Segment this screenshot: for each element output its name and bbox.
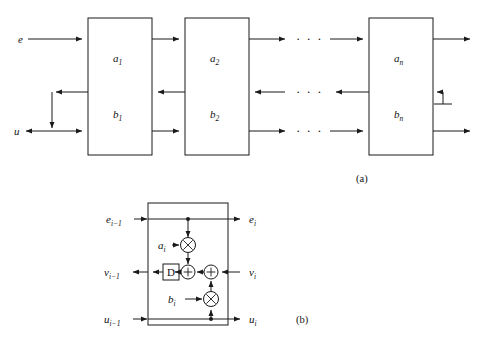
u-out-label: ui (249, 313, 257, 328)
figure-page: a1 b1 a2 b2 an bn e (0, 0, 482, 351)
e-input-label: e (18, 33, 23, 45)
caption-a: (a) (356, 173, 368, 185)
junction-dot-u (209, 317, 213, 321)
panel-a: a1 b1 a2 b2 an bn e (14, 18, 470, 185)
caption-b: (b) (296, 314, 309, 326)
section-box-2 (185, 18, 249, 155)
section-box-n (369, 18, 433, 155)
e-in-label: ei−1 (106, 213, 122, 228)
v-in-label: vi (249, 266, 256, 281)
ellipsis-middle: · · · (296, 84, 323, 99)
delay-element-label: D (167, 266, 175, 278)
u-in-label: ui−1 (104, 313, 120, 328)
u-input-label: u (14, 125, 20, 137)
v-out-label: vi−1 (104, 266, 120, 281)
figure-diagram: a1 b1 a2 b2 an bn e (0, 0, 482, 351)
panel-b: ei−1 ei ai vi−1 (104, 203, 309, 328)
section-box-1 (88, 18, 152, 155)
ellipsis-top: · · · (296, 31, 323, 46)
ellipsis-bottom: · · · (296, 123, 323, 138)
e-out-label: ei (249, 213, 256, 228)
